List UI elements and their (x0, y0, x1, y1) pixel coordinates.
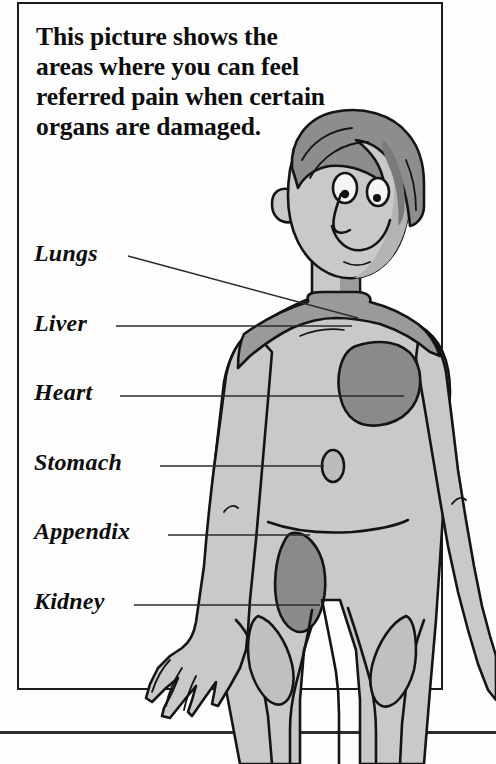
label-lungs: Lungs (34, 240, 98, 267)
label-liver: Liver (34, 310, 87, 337)
label-kidney: Kidney (34, 588, 105, 615)
label-stomach: Stomach (34, 449, 122, 476)
page-title: This picture shows the areas where you c… (36, 22, 336, 142)
page-root: This picture shows the areas where you c… (0, 0, 496, 764)
label-heart: Heart (34, 379, 92, 406)
label-appendix: Appendix (34, 518, 130, 545)
leader-lungs (128, 256, 358, 318)
